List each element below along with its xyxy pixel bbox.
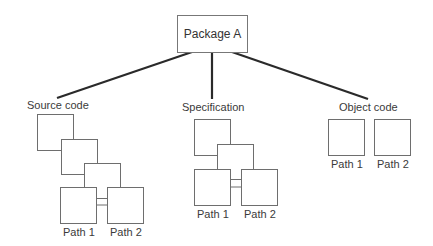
package-a-node: Package A — [177, 15, 248, 53]
spec-path2-label: Path 2 — [244, 208, 276, 220]
source-path1-label: Path 1 — [63, 226, 95, 238]
object-path1-box — [328, 119, 365, 156]
spec-path2-box — [241, 169, 278, 206]
source-path1-box — [60, 187, 97, 224]
object-code-label: Object code — [339, 101, 398, 113]
object-path2-label: Path 2 — [377, 158, 409, 170]
source-path2-box — [107, 187, 144, 224]
source-code-label: Source code — [27, 99, 89, 111]
source-path2-label: Path 2 — [110, 226, 142, 238]
object-path1-label: Path 1 — [331, 158, 363, 170]
specification-label: Specification — [182, 101, 244, 113]
spec-path1-box — [194, 169, 231, 206]
edge-to-object — [232, 52, 368, 99]
package-a-label: Package A — [184, 27, 241, 41]
edge-to-source — [57, 52, 192, 98]
spec-path1-label: Path 1 — [197, 208, 229, 220]
object-path2-box — [374, 119, 411, 156]
